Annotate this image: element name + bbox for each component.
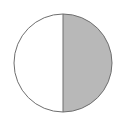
- shaded-right-half: [63, 14, 112, 112]
- half-shaded-circle-diagram: [0, 0, 119, 120]
- unshaded-left-half: [14, 14, 63, 112]
